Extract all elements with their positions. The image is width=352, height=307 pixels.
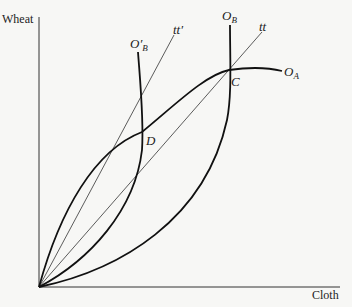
tt-prime-line (39, 35, 174, 287)
label-o-b: OB (222, 8, 237, 25)
curve-o-a (39, 68, 282, 287)
diagram-canvas: Wheat Cloth OA OB O′B tt tt′ C D (0, 0, 352, 307)
offer-curve-diagram: Wheat Cloth OA OB O′B tt tt′ C D (0, 0, 352, 307)
point-d-label: D (145, 133, 156, 148)
label-o-b-prime: O′B (130, 36, 148, 53)
label-tt-prime: tt′ (173, 22, 183, 37)
x-axis-label: Cloth (312, 288, 339, 302)
y-axis-label: Wheat (2, 12, 34, 26)
curve-o-b-prime (39, 52, 143, 287)
curve-o-b (39, 25, 230, 287)
label-o-a: OA (284, 64, 299, 81)
point-c-label: C (231, 74, 240, 89)
label-tt: tt (259, 19, 267, 34)
